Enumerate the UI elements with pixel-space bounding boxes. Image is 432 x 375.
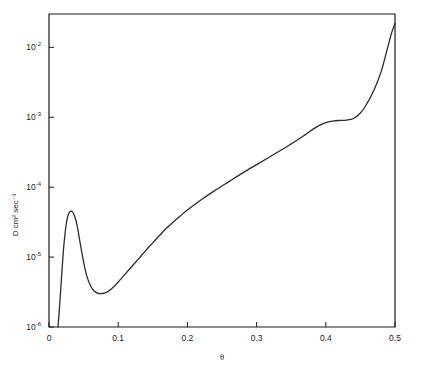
y-tick-label: 10-3 — [26, 111, 41, 122]
x-tick-label: 0.3 — [251, 333, 263, 343]
x-tick-label: 0.4 — [320, 333, 332, 343]
y-axis-tick-labels: 10-610-510-410-310-2 — [26, 41, 41, 332]
y-tick-label: 10-5 — [26, 251, 41, 262]
x-axis-title: θ — [220, 352, 224, 362]
x-axis-tick-labels: 00.10.20.30.40.5 — [47, 333, 402, 343]
y-axis-title: D cm² sec⁻¹ — [11, 193, 20, 236]
y-tick-label: 10-6 — [26, 321, 41, 332]
x-tick-label: 0.2 — [181, 333, 193, 343]
axes-frame-path — [49, 14, 395, 327]
line-chart: 00.10.20.30.40.5 10-610-510-410-310-2 θ … — [0, 0, 432, 375]
x-tick-label: 0 — [47, 333, 52, 343]
x-tick-label: 0.5 — [389, 333, 401, 343]
y-axis-ticks — [49, 47, 54, 327]
data-series-line — [58, 23, 395, 327]
y-tick-label: 10-4 — [26, 181, 41, 192]
figure-panel: 00.10.20.30.40.5 10-610-510-410-310-2 θ … — [0, 0, 432, 375]
x-tick-label: 0.1 — [112, 333, 124, 343]
axes-frame — [49, 14, 395, 327]
y-tick-label: 10-2 — [26, 41, 41, 52]
x-axis-ticks — [49, 322, 395, 327]
